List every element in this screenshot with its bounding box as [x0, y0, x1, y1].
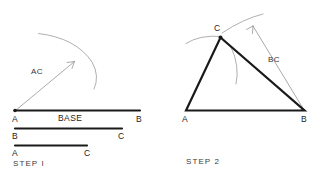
label-seg-bc-end-c: C — [118, 131, 125, 141]
step-2-caption: STEP 2 — [186, 157, 220, 166]
arc-from-a-through-c — [186, 36, 222, 43]
arc-from-a-radius-ac — [39, 34, 97, 90]
construction-figure: AC A BASE B B C A C STEP I — [0, 0, 329, 174]
label-vertex-c: C — [214, 23, 221, 33]
label-base-start-a: A — [12, 114, 18, 124]
point-c-marker — [219, 36, 223, 40]
step-1-diagram: AC A BASE B B C A C STEP I — [12, 34, 142, 169]
label-vertex-a: A — [182, 114, 188, 124]
label-base: BASE — [58, 113, 82, 123]
radius-line-bc — [253, 26, 304, 110]
label-vertex-b: B — [301, 114, 307, 124]
point-a-marker — [13, 109, 17, 113]
label-seg-ac-start-a: A — [12, 148, 18, 158]
label-seg-ac-end-c: C — [84, 148, 91, 158]
label-base-end-b: B — [136, 114, 142, 124]
label-arc-radius-bc: BC — [268, 55, 280, 64]
step-1-caption: STEP I — [13, 159, 45, 168]
step-2-diagram: BC A B C STEP 2 — [182, 14, 307, 166]
radius-arrowhead-bc — [247, 26, 254, 34]
label-seg-bc-start-b: B — [12, 131, 18, 141]
figure-canvas: AC A BASE B B C A C STEP I — [0, 0, 329, 174]
arc-from-b-radius-bc — [222, 14, 263, 33]
radius-line-ac — [16, 62, 75, 111]
triangle-abc — [186, 38, 305, 111]
label-arc-radius-ac: AC — [31, 67, 43, 76]
